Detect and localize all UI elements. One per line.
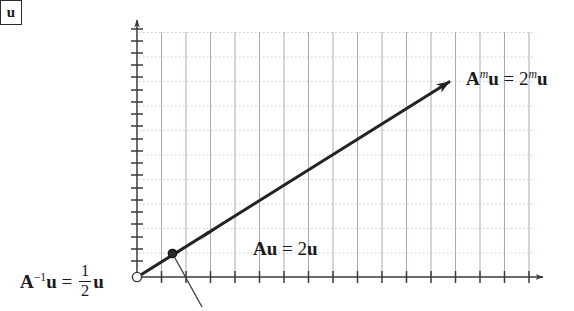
fraction-numerator: 1 xyxy=(79,263,91,280)
label-a-inverse-exponent: −1 xyxy=(34,271,47,284)
x-axis xyxy=(137,271,543,283)
label-a-inverse-vector: u xyxy=(46,271,57,292)
label-a-inverse-result: u xyxy=(93,271,104,292)
u-point-marker xyxy=(168,249,176,257)
label-a-equals: = xyxy=(282,238,293,259)
grid-horizontal-lines xyxy=(139,33,533,254)
label-a-m-u: Amu = 2mu xyxy=(466,68,548,90)
u-pointer-line xyxy=(175,258,202,307)
label-a-result: u xyxy=(307,238,318,259)
label-a-inverse-u: A−1u = 1 2 u xyxy=(20,263,104,300)
label-am-scalar: 2 xyxy=(519,68,529,89)
eigenvector-scaling-figure: A−1u = 1 2 u Au = 2u Amu = 2mu u xyxy=(0,0,574,311)
label-am-equals: = xyxy=(504,68,515,89)
one-half-fraction: 1 2 xyxy=(79,263,91,300)
label-a-inverse-equals: = xyxy=(62,271,73,292)
label-a-vector: u xyxy=(267,238,278,259)
label-am-result: u xyxy=(537,68,548,89)
origin-open-circle xyxy=(132,272,141,281)
label-am-matrix-exponent: m xyxy=(480,68,489,81)
label-am-scalar-exponent: m xyxy=(529,68,538,81)
fraction-denominator: 2 xyxy=(79,283,91,300)
y-axis xyxy=(131,20,143,277)
label-a-inverse-matrix: A xyxy=(20,271,34,292)
label-am-matrix: A xyxy=(466,68,480,89)
label-a-scalar: 2 xyxy=(298,238,308,259)
label-a-u: Au = 2u xyxy=(253,238,318,260)
label-a-matrix: A xyxy=(253,238,267,259)
label-am-vector: u xyxy=(488,68,499,89)
mid-arrowhead xyxy=(199,228,218,241)
